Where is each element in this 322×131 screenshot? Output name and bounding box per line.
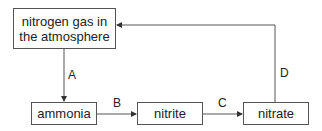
node-nitrate: nitrate xyxy=(243,102,309,125)
edge-label-b: B xyxy=(113,96,121,110)
node-atmosphere: nitrogen gas in the atmosphere xyxy=(13,8,116,49)
edge-label-d: D xyxy=(280,66,289,80)
node-ammonia-label: ammonia xyxy=(37,106,90,121)
edge-label-c: C xyxy=(218,96,227,110)
node-ammonia: ammonia xyxy=(31,102,97,125)
arrow-d xyxy=(117,25,275,103)
node-nitrite: nitrite xyxy=(137,102,203,125)
node-nitrate-label: nitrate xyxy=(258,106,294,121)
node-atmosphere-label: nitrogen gas in the atmosphere xyxy=(14,14,115,44)
edge-label-a: A xyxy=(68,68,76,82)
node-nitrite-label: nitrite xyxy=(154,106,186,121)
